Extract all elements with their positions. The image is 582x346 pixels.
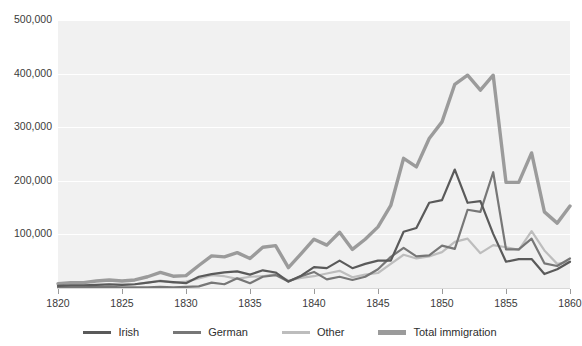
x-tick-1825 — [122, 289, 123, 294]
legend-item-german[interactable]: German — [173, 326, 248, 338]
x-tick-label-1825: 1825 — [110, 297, 133, 309]
x-tick-label-1835: 1835 — [238, 297, 261, 309]
y-tick-label-100000: 100,000 — [14, 228, 52, 239]
x-tick-label-1820: 1820 — [46, 297, 69, 309]
plot-area — [58, 20, 570, 288]
x-tick-1860 — [570, 289, 571, 294]
legend-swatch-icon — [378, 330, 406, 335]
legend-item-other[interactable]: Other — [282, 326, 345, 338]
legend-swatch-icon — [173, 331, 201, 334]
x-tick-label-1840: 1840 — [302, 297, 325, 309]
x-tick-label-1830: 1830 — [174, 297, 197, 309]
x-tick-1820 — [58, 289, 59, 294]
x-tick-1835 — [250, 289, 251, 294]
y-axis-labels: 500,000 400,000 300,000 200,000 100,000 — [0, 0, 52, 346]
y-tick-label-200000: 200,000 — [14, 175, 52, 186]
gridline-400000 — [58, 74, 570, 75]
x-tick-1850 — [442, 289, 443, 294]
x-tick-label-1860: 1860 — [558, 297, 581, 309]
x-tick-label-1855: 1855 — [494, 297, 517, 309]
gridline-300000 — [58, 127, 570, 128]
gridline-500000 — [58, 20, 570, 21]
y-tick-label-500000: 500,000 — [14, 14, 52, 25]
legend-label: Irish — [118, 326, 139, 338]
x-tick-label-1845: 1845 — [366, 297, 389, 309]
chart-legend: IrishGermanOtherTotal immigration — [0, 322, 580, 342]
y-tick-label-400000: 400,000 — [14, 68, 52, 79]
legend-item-irish[interactable]: Irish — [83, 326, 139, 338]
x-tick-label-1850: 1850 — [430, 297, 453, 309]
legend-label: German — [208, 326, 248, 338]
x-tick-1845 — [378, 289, 379, 294]
gridline-200000 — [58, 181, 570, 182]
y-tick-label-300000: 300,000 — [14, 121, 52, 132]
legend-label: Total immigration — [413, 326, 496, 338]
x-tick-1855 — [506, 289, 507, 294]
x-tick-1830 — [186, 289, 187, 294]
x-tick-1840 — [314, 289, 315, 294]
gridline-100000 — [58, 234, 570, 235]
legend-item-total-immigration[interactable]: Total immigration — [378, 326, 496, 338]
legend-swatch-icon — [282, 331, 310, 334]
legend-label: Other — [317, 326, 345, 338]
legend-swatch-icon — [83, 331, 111, 334]
